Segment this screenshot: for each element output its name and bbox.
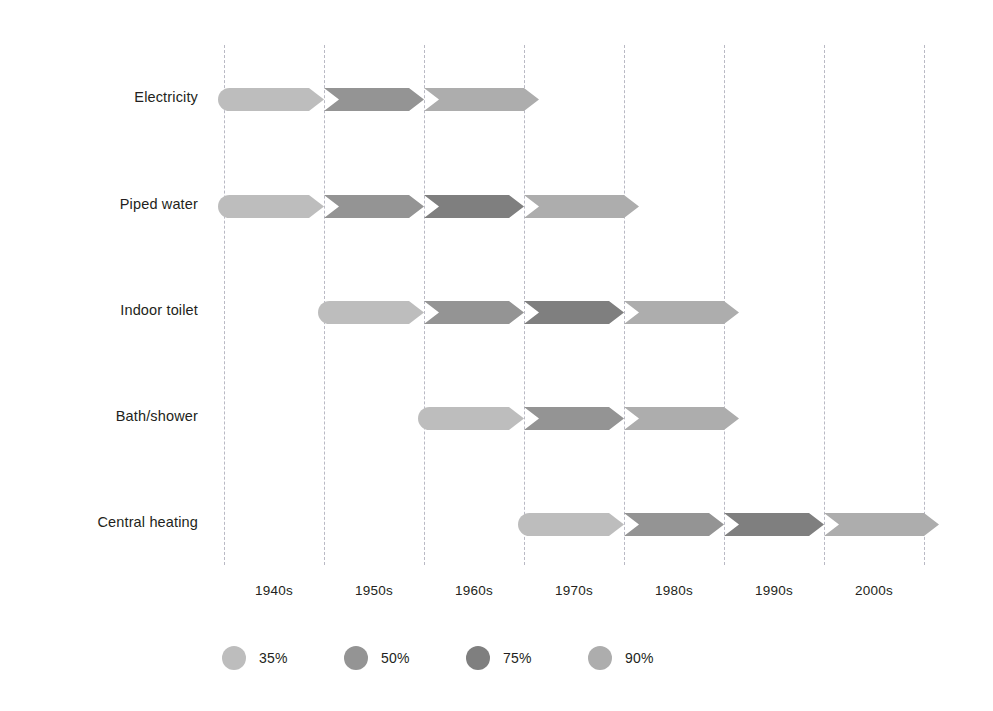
category-label-holder: Bath/shower: [8, 409, 198, 427]
legend-label: 35%: [259, 650, 288, 666]
chart-row-piped-water: Piped water: [0, 185, 993, 225]
bar-segment-75pct: [724, 513, 824, 536]
legend-label: 90%: [625, 650, 654, 666]
legend-swatch-circle-icon: [466, 646, 490, 670]
timeline-bar: [218, 88, 539, 111]
x-tick-1990s: 1990s: [724, 583, 824, 598]
timeline-bar: [218, 195, 639, 218]
chart-row-central-heating: Central heating: [0, 503, 993, 543]
chart-row-electricity: Electricity: [0, 78, 993, 118]
bar-segment-90pct: [824, 513, 939, 536]
x-tick-1950s: 1950s: [324, 583, 424, 598]
bar-segment-75pct: [624, 407, 739, 430]
bar-segment-35pct: [218, 88, 324, 111]
bar-segment-90pct: [624, 301, 739, 324]
legend-item-35pct[interactable]: 35%: [222, 643, 288, 673]
category-label: Electricity: [18, 90, 198, 105]
x-tick-1960s: 1960s: [424, 583, 524, 598]
legend-swatch-circle-icon: [344, 646, 368, 670]
legend-label: 75%: [503, 650, 532, 666]
category-label-holder: Central heating: [8, 515, 198, 533]
bar-segment-35pct: [318, 301, 424, 324]
legend-swatch-circle-icon: [588, 646, 612, 670]
bar-segment-50pct: [624, 513, 724, 536]
category-label: Indoor toilet: [18, 303, 198, 318]
legend-swatch-circle-icon: [222, 646, 246, 670]
category-label-holder: Indoor toilet: [8, 303, 198, 321]
x-tick-2000s: 2000s: [824, 583, 924, 598]
category-label-holder: Piped water: [8, 197, 198, 215]
bar-segment-75pct: [424, 195, 524, 218]
category-label-holder: Electricity: [8, 90, 198, 108]
x-tick-1980s: 1980s: [624, 583, 724, 598]
plot-area: ElectricityPiped waterIndoor toiletBath/…: [0, 0, 993, 580]
housing-amenities-timeline-chart: ElectricityPiped waterIndoor toiletBath/…: [0, 0, 993, 711]
legend-item-50pct[interactable]: 50%: [344, 643, 410, 673]
chart-row-indoor-toilet: Indoor toilet: [0, 291, 993, 331]
bar-segment-90pct: [524, 195, 639, 218]
bar-segment-50pct: [324, 88, 424, 111]
bar-segment-75pct: [424, 88, 539, 111]
legend-item-75pct[interactable]: 75%: [466, 643, 532, 673]
timeline-bar: [518, 513, 939, 536]
category-label: Bath/shower: [18, 409, 198, 424]
bar-segment-50pct: [524, 407, 624, 430]
x-tick-1940s: 1940s: [224, 583, 324, 598]
bar-segment-50pct: [324, 195, 424, 218]
bar-segment-75pct: [524, 301, 624, 324]
x-axis-tick-labels: 1940s1950s1960s1970s1980s1990s2000s: [0, 583, 993, 609]
timeline-bar: [418, 407, 739, 430]
timeline-bar: [318, 301, 739, 324]
bar-segment-35pct: [418, 407, 524, 430]
category-label: Piped water: [18, 197, 198, 212]
x-tick-1970s: 1970s: [524, 583, 624, 598]
bar-segment-50pct: [424, 301, 524, 324]
category-label: Central heating: [18, 515, 198, 530]
chart-row-bath-shower: Bath/shower: [0, 397, 993, 437]
legend-item-90pct[interactable]: 90%: [588, 643, 654, 673]
bar-segment-35pct: [518, 513, 624, 536]
bar-segment-35pct: [218, 195, 324, 218]
legend-label: 50%: [381, 650, 410, 666]
